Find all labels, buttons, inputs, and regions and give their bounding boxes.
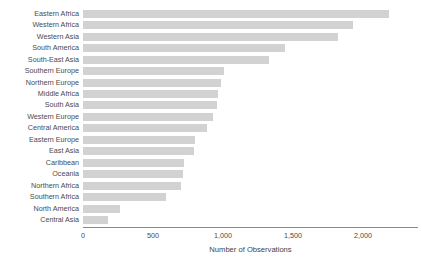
bar-track: [83, 214, 422, 225]
bar-row: Eastern Europe: [0, 134, 422, 145]
bar-track: [83, 42, 422, 53]
bar-track: [83, 77, 422, 88]
category-label: Central Asia: [0, 216, 79, 224]
bar: [83, 147, 194, 155]
bar: [83, 159, 184, 167]
bar-track: [83, 134, 422, 145]
bar-row: South-East Asia: [0, 54, 422, 65]
category-label: South-East Asia: [0, 56, 79, 64]
bar-row: Western Asia: [0, 31, 422, 42]
bar: [83, 101, 217, 109]
bar-row: South Asia: [0, 100, 422, 111]
category-label: South America: [0, 44, 79, 52]
bar-track: [83, 203, 422, 214]
bar: [83, 113, 213, 121]
x-axis-title: Number of Observations: [83, 245, 418, 255]
chart-rows: Eastern AfricaWestern AfricaWestern Asia…: [0, 8, 422, 226]
bar-track: [83, 123, 422, 134]
bar-track: [83, 180, 422, 191]
bar-track: [83, 8, 422, 19]
bar-row: South America: [0, 42, 422, 53]
bar-row: Middle Africa: [0, 88, 422, 99]
bar-row: East Asia: [0, 146, 422, 157]
bar: [83, 216, 108, 224]
bar: [83, 33, 338, 41]
bar-track: [83, 192, 422, 203]
bar-row: Western Europe: [0, 111, 422, 122]
bar: [83, 79, 221, 87]
bar-track: [83, 157, 422, 168]
bar-row: Eastern Africa: [0, 8, 422, 19]
category-label: Western Africa: [0, 21, 79, 29]
category-label: North America: [0, 205, 79, 213]
bar: [83, 136, 195, 144]
bar: [83, 182, 181, 190]
bar-row: Southern Europe: [0, 65, 422, 76]
x-axis-ticks: 05001,0001,5002,000: [0, 231, 422, 243]
x-tick-label: 1,000: [214, 231, 232, 240]
category-label: Western Asia: [0, 33, 79, 41]
category-label: Northern Africa: [0, 182, 79, 190]
bar-row: Central America: [0, 123, 422, 134]
category-label: Middle Africa: [0, 90, 79, 98]
bar: [83, 67, 224, 75]
category-label: Caribbean: [0, 159, 79, 167]
category-label: Northern Europe: [0, 79, 79, 87]
x-tick-label: 0: [81, 231, 85, 240]
bar-row: Caribbean: [0, 157, 422, 168]
bar-track: [83, 169, 422, 180]
bar-row: Northern Europe: [0, 77, 422, 88]
category-label: Southern Africa: [0, 193, 79, 201]
bar-row: Oceania: [0, 169, 422, 180]
bar: [83, 170, 183, 178]
bar: [83, 10, 389, 18]
bar-row: Southern Africa: [0, 192, 422, 203]
bar: [83, 124, 207, 132]
bar: [83, 205, 120, 213]
category-label: Oceania: [0, 170, 79, 178]
bar: [83, 21, 353, 29]
bar: [83, 90, 218, 98]
bar-track: [83, 65, 422, 76]
bar: [83, 56, 269, 64]
x-tick-label: 1,500: [284, 231, 302, 240]
bar-row: Central Asia: [0, 214, 422, 225]
x-axis-line: [83, 227, 418, 228]
category-label: South Asia: [0, 101, 79, 109]
category-label: Central America: [0, 124, 79, 132]
x-tick-label: 500: [147, 231, 159, 240]
bar-row: Northern Africa: [0, 180, 422, 191]
bar-chart: Eastern AfricaWestern AfricaWestern Asia…: [0, 0, 422, 269]
bar-row: North America: [0, 203, 422, 214]
bar: [83, 193, 166, 201]
x-tick-label: 2,000: [354, 231, 372, 240]
bar: [83, 44, 285, 52]
bar-track: [83, 31, 422, 42]
category-label: Eastern Europe: [0, 136, 79, 144]
bar-track: [83, 88, 422, 99]
bar-track: [83, 54, 422, 65]
bar-track: [83, 19, 422, 30]
bar-track: [83, 146, 422, 157]
bar-row: Western Africa: [0, 19, 422, 30]
bar-track: [83, 111, 422, 122]
category-label: East Asia: [0, 147, 79, 155]
bar-track: [83, 100, 422, 111]
category-label: Western Europe: [0, 113, 79, 121]
category-label: Eastern Africa: [0, 10, 79, 18]
category-label: Southern Europe: [0, 67, 79, 75]
